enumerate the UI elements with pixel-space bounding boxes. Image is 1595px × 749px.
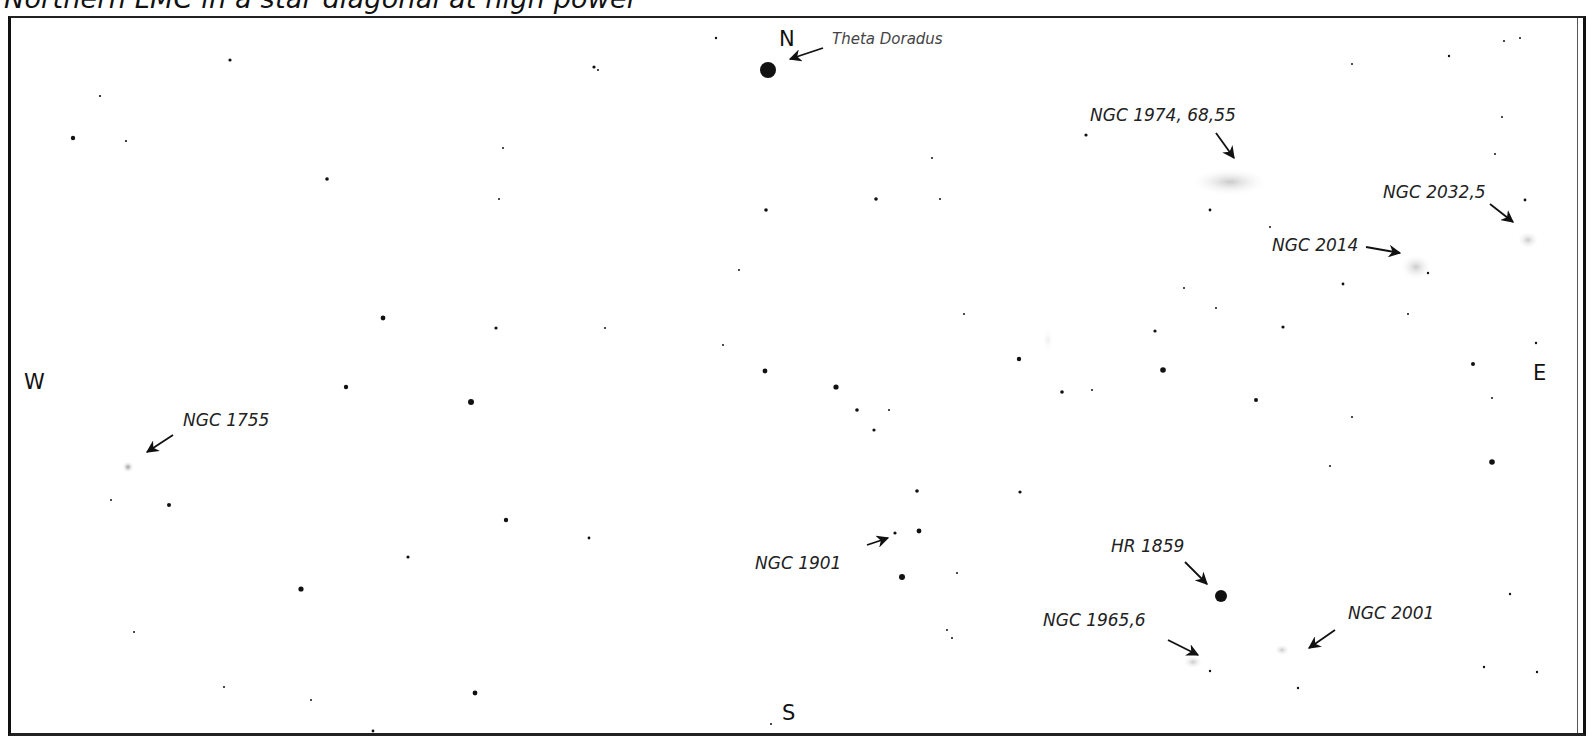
label-ngc2014: NGC 2014 xyxy=(1272,235,1358,255)
stars xyxy=(71,37,1538,733)
arrow-hr1859-icon xyxy=(1185,562,1207,584)
label-theta-doradus: Theta Doradus xyxy=(832,30,943,48)
ngc2001-nebula-icon xyxy=(1274,644,1290,656)
hr1859-star-icon xyxy=(1215,590,1227,602)
arrow-ngc2032-icon xyxy=(1490,204,1513,222)
star-chart: N S E W Theta Doradus NGC 1974, 68,55 NG… xyxy=(0,0,1595,749)
label-ngc2001: NGC 2001 xyxy=(1348,603,1434,623)
label-ngc1974: NGC 1974, 68,55 xyxy=(1090,105,1236,125)
arrow-ngc1965-icon xyxy=(1168,640,1198,655)
label-ngc1965: NGC 1965,6 xyxy=(1043,610,1146,630)
ngc1974-nebula-icon xyxy=(1190,168,1270,196)
faint-nebula-icon xyxy=(1042,328,1054,352)
west-label: W xyxy=(24,370,45,394)
arrow-ngc2001-icon xyxy=(1309,630,1335,648)
theta-doradus-star-icon xyxy=(760,62,776,78)
south-label: S xyxy=(782,701,795,725)
label-ngc1755: NGC 1755 xyxy=(183,410,269,430)
arrow-theta-doradus-icon xyxy=(790,48,823,59)
label-ngc2032: NGC 2032,5 xyxy=(1383,182,1486,202)
ngc2032-nebula-icon xyxy=(1517,231,1539,249)
label-ngc1901: NGC 1901 xyxy=(755,553,841,573)
arrow-ngc1755-icon xyxy=(147,435,173,452)
arrow-ngc1974-icon xyxy=(1216,133,1234,158)
label-hr1859: HR 1859 xyxy=(1111,536,1184,556)
ngc1965-nebula-icon xyxy=(1183,655,1203,669)
arrow-ngc1901-icon xyxy=(867,538,888,545)
ngc1755-cluster-icon xyxy=(122,461,134,473)
arrow-ngc2014-icon xyxy=(1366,247,1400,253)
north-label: N xyxy=(779,27,795,51)
east-label: E xyxy=(1533,361,1546,385)
ngc2014-nebula-icon xyxy=(1400,254,1432,280)
